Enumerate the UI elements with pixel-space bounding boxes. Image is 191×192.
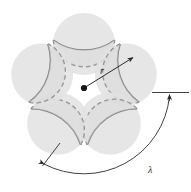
center-point-dot	[81, 85, 87, 91]
wavelength-label: λ	[147, 164, 153, 175]
rosette-geometry-figure: r λ	[0, 0, 191, 192]
radius-label: r	[100, 65, 104, 76]
